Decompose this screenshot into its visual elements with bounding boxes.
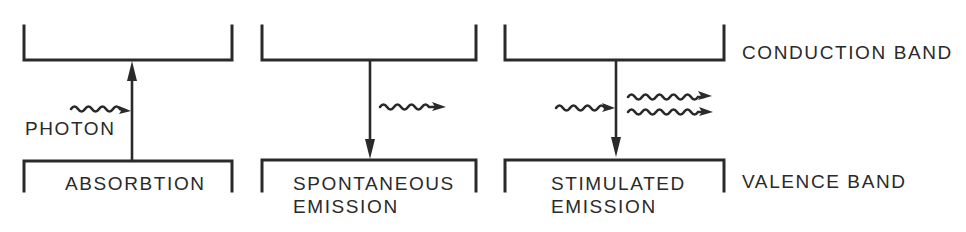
outgoing-photon-wave-icon [628, 107, 713, 116]
arrow-down-icon [365, 60, 375, 159]
photon-label: PHOTON [25, 118, 116, 140]
stimulated-emission-caption-line2: EMISSION [551, 196, 657, 218]
conduction-band-bracket [505, 26, 724, 60]
panel-stimulated-emission [505, 26, 724, 191]
conduction-band-bracket [24, 26, 232, 60]
energy-band-diagram [0, 0, 966, 232]
spontaneous-emission-caption-line1: SPONTANEOUS [293, 173, 455, 195]
absorption-caption: ABSORBTION [65, 173, 206, 195]
valence-band-label: VALENCE BAND [742, 171, 907, 193]
photon-wave-icon [71, 106, 131, 114]
outgoing-photon-wave-icon [628, 91, 712, 100]
photon-wave-icon [380, 102, 446, 111]
conduction-band-bracket [262, 26, 476, 60]
stimulated-emission-caption-line1: STIMULATED [551, 173, 686, 195]
spontaneous-emission-caption-line2: EMISSION [293, 196, 399, 218]
conduction-band-label: CONDUCTION BAND [742, 42, 953, 64]
panel-spontaneous-emission [262, 26, 476, 191]
panel-absorption [24, 26, 232, 191]
incoming-photon-wave-icon [556, 103, 615, 112]
